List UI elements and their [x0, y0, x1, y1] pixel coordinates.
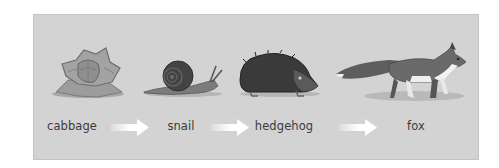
arrow-right-icon	[211, 119, 249, 136]
arrow-right-icon	[111, 119, 149, 136]
cabbage-icon	[48, 42, 128, 102]
arrow-right-icon	[339, 119, 377, 136]
fox-icon	[334, 42, 468, 104]
label-snail: snail	[167, 119, 194, 133]
label-cabbage: cabbage	[47, 119, 97, 133]
label-fox: fox	[407, 119, 425, 133]
hedgehog-icon	[236, 50, 322, 98]
label-hedgehog: hedgehog	[255, 119, 313, 133]
snail-icon	[142, 56, 226, 98]
